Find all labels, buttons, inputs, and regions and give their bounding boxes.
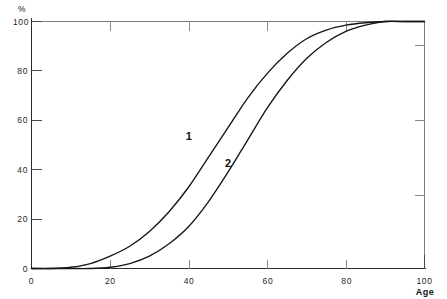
top-frame-ticks: [110, 22, 346, 32]
chart-plot-area: 0 20 40 60 80 100 % 0 20 40 60 80 100 Ag…: [0, 0, 447, 299]
y-tick-label-40: 40: [17, 165, 28, 175]
data-curve-series-1: [32, 21, 425, 268]
x-tick-label-20: 20: [105, 276, 116, 286]
x-tick-label-0: 0: [29, 276, 34, 286]
y-axis-unit-label: %: [18, 4, 26, 14]
y-tick-label-0: 0: [23, 264, 28, 274]
y-axis-ticks: [32, 22, 43, 269]
x-tick-label-80: 80: [341, 276, 352, 286]
y-tick-label-80: 80: [17, 66, 28, 76]
series-annotation-2: 2: [225, 157, 231, 169]
y-tick-label-60: 60: [17, 115, 28, 125]
x-axis-title: Age: [416, 287, 435, 297]
data-curve-series-2: [32, 21, 425, 268]
x-tick-label-40: 40: [184, 276, 195, 286]
chart-figure: 0 20 40 60 80 100 % 0 20 40 60 80 100 Ag…: [0, 0, 447, 299]
series-annotation-1: 1: [186, 130, 192, 142]
x-tick-label-100: 100: [417, 276, 433, 286]
x-tick-label-60: 60: [263, 276, 274, 286]
y-tick-label-100: 100: [13, 17, 29, 27]
right-frame-ticks: [415, 45, 425, 195]
x-axis-ticks: [110, 255, 424, 269]
y-tick-label-20: 20: [17, 214, 28, 224]
